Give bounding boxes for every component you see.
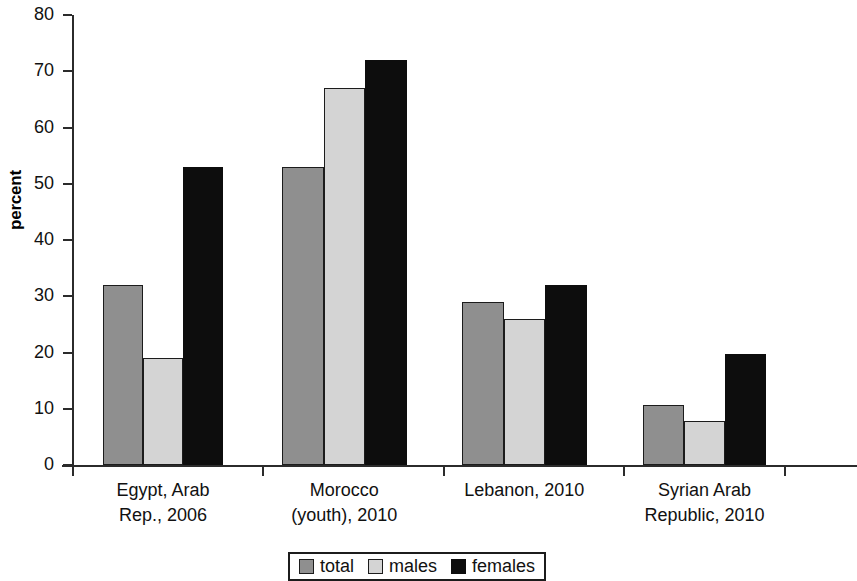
bar-total-0 (103, 285, 143, 465)
x-axis-tick (443, 466, 445, 476)
y-axis-tick (63, 127, 72, 129)
y-axis-tick-label: 10 (8, 399, 54, 417)
y-axis-tick (63, 183, 72, 185)
legend-item-males: males (368, 557, 437, 575)
x-axis-label-line: Egypt, Arab (63, 478, 263, 503)
x-axis-label-0: Egypt, ArabRep., 2006 (63, 478, 263, 528)
y-axis-tick-label: 70 (8, 61, 54, 79)
legend-label-total: total (320, 557, 354, 575)
bar-total-1 (282, 167, 324, 465)
y-axis-line (72, 15, 74, 466)
x-axis-tick (72, 466, 74, 476)
y-axis-tick (63, 70, 72, 72)
y-axis-tick (63, 239, 72, 241)
y-axis-tick (63, 14, 72, 16)
legend-item-females: females (451, 557, 535, 575)
x-axis-label-line: Lebanon, 2010 (424, 478, 624, 503)
chart-legend: total males females (288, 552, 546, 581)
y-axis-tick-label: 40 (8, 230, 54, 248)
y-axis-tick-label: 30 (8, 286, 54, 304)
y-axis-tick-label: 80 (8, 5, 54, 23)
x-axis-tick (623, 466, 625, 476)
legend-label-males: males (389, 557, 437, 575)
bar-females-2 (545, 285, 587, 465)
bar-total-3 (643, 405, 684, 465)
y-axis-tick (63, 408, 72, 410)
y-axis-tick (63, 295, 72, 297)
legend-label-females: females (472, 557, 535, 575)
x-axis-line (62, 465, 857, 467)
bar-males-0 (143, 358, 183, 465)
x-axis-label-line: Morocco (244, 478, 444, 503)
bar-females-0 (183, 167, 223, 465)
x-axis-label-line: (youth), 2010 (244, 503, 444, 528)
legend-swatch-males-icon (368, 559, 383, 574)
x-axis-label-line: Syrian Arab (605, 478, 805, 503)
bar-females-1 (365, 60, 407, 465)
legend-swatch-total-icon (299, 559, 314, 574)
x-axis-label-1: Morocco(youth), 2010 (244, 478, 444, 528)
y-axis-tick (63, 352, 72, 354)
x-axis-label-2: Lebanon, 2010 (424, 478, 624, 503)
legend-item-total: total (299, 557, 354, 575)
legend-swatch-females-icon (451, 559, 466, 574)
bar-males-2 (504, 319, 546, 465)
y-axis-tick-label: 20 (8, 343, 54, 361)
bar-females-3 (725, 354, 766, 465)
y-axis-title: percent (6, 160, 26, 240)
x-axis-tick (784, 466, 786, 476)
x-axis-tick (262, 466, 264, 476)
y-axis-tick-label: 0 (8, 455, 54, 473)
bar-total-2 (462, 302, 504, 465)
y-axis-tick (63, 464, 72, 466)
y-axis-tick-label: 50 (8, 174, 54, 192)
bar-males-1 (324, 88, 366, 465)
bar-males-3 (684, 421, 725, 465)
plot-area: 01020304050607080 (72, 15, 785, 465)
y-axis-tick-label: 60 (8, 118, 54, 136)
x-axis-label-3: Syrian ArabRepublic, 2010 (605, 478, 805, 528)
x-axis-label-line: Rep., 2006 (63, 503, 263, 528)
x-axis-label-line: Republic, 2010 (605, 503, 805, 528)
